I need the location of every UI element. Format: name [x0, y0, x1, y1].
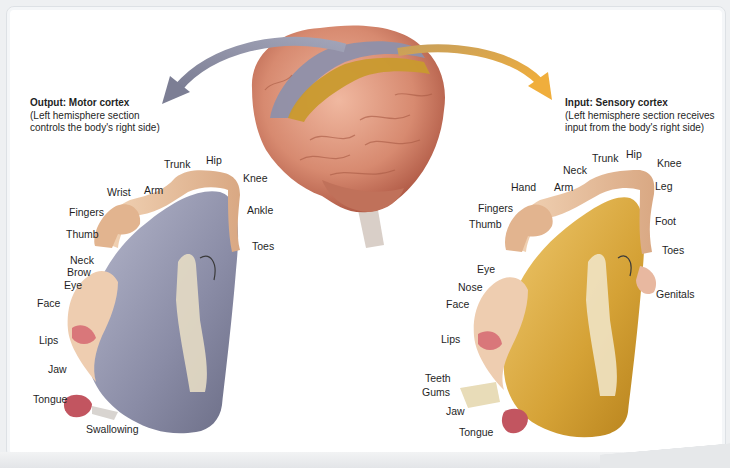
sensory-label-eye: Eye [477, 263, 495, 275]
cortex-illustration [0, 0, 730, 468]
sensory-label-teeth: Teeth [425, 372, 451, 384]
motor-cortex-subtitle-2: controls the body's right side) [30, 122, 160, 135]
motor-label-knee: Knee [243, 172, 268, 184]
motor-label-fingers: Fingers [69, 206, 104, 218]
sensory-label-lips: Lips [441, 333, 460, 345]
sensory-label-fingers: Fingers [478, 202, 513, 214]
motor-cortex-title: Output: Motor cortex [30, 97, 160, 110]
motor-label-swallowing: Swallowing [86, 423, 139, 435]
sensory-cortex-subtitle-1: (Left hemisphere section receives [565, 110, 715, 123]
sensory-label-face: Face [446, 298, 469, 310]
brain-icon [252, 25, 445, 212]
sensory-label-foot: Foot [655, 215, 676, 227]
sensory-label-knee: Knee [657, 157, 682, 169]
motor-label-tongue: Tongue [33, 393, 67, 405]
motor-label-trunk: Trunk [164, 158, 190, 170]
sensory-label-leg: Leg [655, 180, 673, 192]
sensory-label-nose: Nose [458, 281, 483, 293]
sensory-label-gums: Gums [422, 386, 450, 398]
sensory-label-toes: Toes [662, 244, 684, 256]
sensory-label-thumb: Thumb [469, 218, 502, 230]
sensory-label-hip: Hip [626, 148, 642, 160]
motor-label-brow: Brow [67, 266, 91, 278]
motor-label-arm: Arm [144, 184, 163, 196]
sensory-cortex-title: Input: Sensory cortex [565, 97, 715, 110]
motor-label-toes: Toes [252, 240, 274, 252]
sensory-label-arm: Arm [554, 181, 573, 193]
motor-label-lips: Lips [39, 334, 58, 346]
motor-label-wrist: Wrist [107, 186, 131, 198]
motor-label-face: Face [37, 297, 60, 309]
sensory-cortex-subtitle-2: input from the body's right side) [565, 122, 715, 135]
sensory-label-tongue: Tongue [459, 426, 493, 438]
motor-label-neck: Neck [70, 254, 94, 266]
sensory-cortex-caption: Input: Sensory cortex (Left hemisphere s… [565, 97, 715, 135]
motor-label-jaw: Jaw [48, 363, 67, 375]
motor-label-hip: Hip [206, 154, 222, 166]
sensory-label-genitals: Genitals [656, 288, 695, 300]
sensory-label-jaw: Jaw [446, 405, 465, 417]
motor-label-eye: Eye [64, 279, 82, 291]
motor-label-thumb: Thumb [66, 228, 99, 240]
sensory-label-trunk: Trunk [592, 152, 618, 164]
sensory-label-neck: Neck [563, 164, 587, 176]
brain-stem [358, 210, 384, 248]
motor-label-ankle: Ankle [247, 204, 273, 216]
motor-cortex-subtitle-1: (Left hemisphere section [30, 110, 160, 123]
sensory-label-hand: Hand [511, 181, 536, 193]
motor-cortex-caption: Output: Motor cortex (Left hemisphere se… [30, 97, 160, 135]
